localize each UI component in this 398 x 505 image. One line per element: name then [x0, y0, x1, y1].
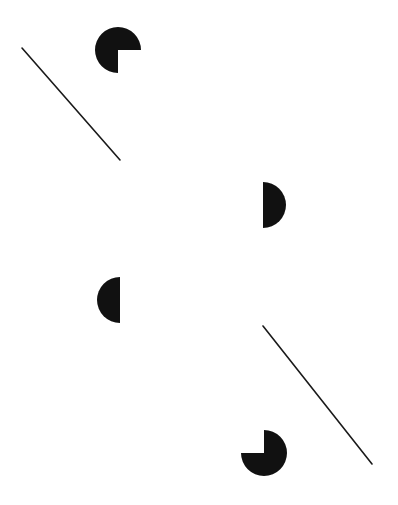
figure-canvas: Illusory contour stimulus Four black cir… [0, 0, 398, 505]
background-rect [0, 0, 398, 505]
illusory-contour-figure [0, 0, 398, 505]
